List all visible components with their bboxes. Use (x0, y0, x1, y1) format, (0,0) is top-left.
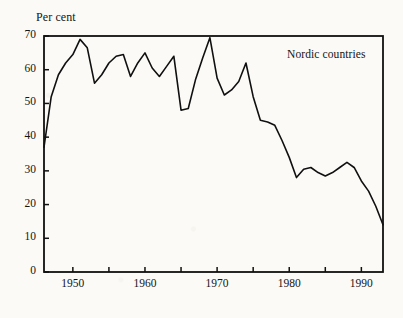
y-axis-tick-label: 50 (8, 95, 36, 107)
x-axis-tick-label: 1980 (265, 277, 313, 289)
plot-frame-box (44, 36, 383, 272)
y-axis-tick-label: 10 (8, 230, 36, 242)
data-series-line (44, 38, 383, 225)
x-axis-tick-label: 1970 (193, 277, 241, 289)
series-annotation-nordic-countries: Nordic countries (287, 48, 366, 60)
y-axis-tick-label: 0 (8, 264, 36, 276)
x-axis-tick-label: 1990 (337, 277, 385, 289)
y-axis-tick-label: 70 (8, 28, 36, 40)
chart-figure: Per cent 010203040506070 195019601970198… (0, 0, 403, 318)
y-axis-tick-label: 60 (8, 62, 36, 74)
data-series-group (44, 38, 383, 225)
y-axis-tick-label: 20 (8, 197, 36, 209)
x-axis-tick-label: 1950 (49, 277, 97, 289)
y-axis-tick-label: 40 (8, 129, 36, 141)
y-axis-tick-label: 30 (8, 163, 36, 175)
x-axis-tick-label: 1960 (121, 277, 169, 289)
plot-frame (44, 36, 383, 272)
